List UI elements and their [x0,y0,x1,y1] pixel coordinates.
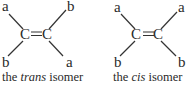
cis-top-left-substituent: a [114,0,121,15]
trans-top-right-substituent: b [67,0,75,14]
trans-bottom-left-substituent: b [2,55,10,70]
cis-bottom-right-substituent: b [178,55,186,70]
cis-caption: the cis isomer [113,70,182,85]
trans-caption: the trans isomer [2,70,83,85]
trans-left-carbon: C [20,27,30,42]
cis-bottom-left-substituent: b [114,55,122,70]
trans-right-carbon: C [42,27,52,42]
trans-isomer-diagram: a b C C b a the trans isomer [0,0,94,109]
cis-right-carbon: C [153,27,163,42]
trans-top-left-substituent: a [2,0,9,14]
cis-isomer-diagram: a a C C b b the cis isomer [93,0,187,109]
cis-top-right-substituent: a [178,0,185,15]
cis-left-carbon: C [131,27,141,42]
trans-bottom-right-substituent: a [66,55,73,70]
